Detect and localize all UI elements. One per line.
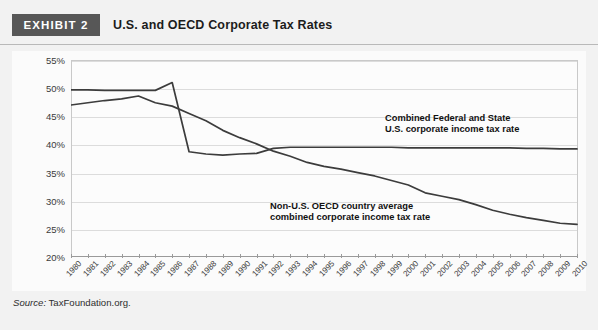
x-axis-tick-mark bbox=[459, 254, 460, 258]
header-divider bbox=[0, 44, 598, 45]
y-axis-tick-label: 30% bbox=[19, 195, 65, 206]
x-axis-tick-mark bbox=[206, 254, 207, 258]
x-axis-tick-label: 2005 bbox=[486, 259, 505, 278]
x-axis-tick-mark bbox=[105, 254, 106, 258]
x-axis-tick-label: 1995 bbox=[317, 259, 336, 278]
x-axis-tick-label: 2008 bbox=[537, 259, 556, 278]
x-axis-tick-label: 1989 bbox=[216, 259, 235, 278]
source-text: TaxFoundation.org. bbox=[46, 297, 131, 308]
source-keyword: Source: bbox=[13, 297, 46, 308]
y-axis-tick-label: 25% bbox=[19, 223, 65, 234]
annotation-oecd-line2: combined corporate income tax rate bbox=[270, 212, 430, 223]
exhibit-figure: EXHIBIT 2 U.S. and OECD Corporate Tax Ra… bbox=[0, 0, 598, 330]
annotation-us-line2: U.S. corporate income tax rate bbox=[385, 124, 519, 135]
y-axis-tick-label: 20% bbox=[19, 252, 65, 263]
x-axis-tick-label: 2010 bbox=[570, 259, 589, 278]
x-axis-tick-label: 1999 bbox=[385, 259, 404, 278]
x-axis-tick-label: 2001 bbox=[419, 259, 438, 278]
exhibit-title: U.S. and OECD Corporate Tax Rates bbox=[113, 14, 332, 36]
x-axis-tick-label: 1981 bbox=[81, 259, 100, 278]
x-axis-tick-mark bbox=[172, 254, 173, 258]
x-axis-tick-mark bbox=[88, 254, 89, 258]
x-axis-tick-mark bbox=[577, 254, 578, 258]
x-axis-tick-mark bbox=[358, 254, 359, 258]
x-axis-tick-label: 1986 bbox=[166, 259, 185, 278]
x-axis-tick-mark bbox=[307, 254, 308, 258]
x-axis-tick-label: 2004 bbox=[469, 259, 488, 278]
x-axis-tick-mark bbox=[560, 254, 561, 258]
annotation-us-line1: Combined Federal and State bbox=[385, 113, 519, 124]
x-axis-tick-label: 1982 bbox=[98, 259, 117, 278]
x-axis-tick-mark bbox=[510, 254, 511, 258]
x-axis-tick-mark bbox=[139, 254, 140, 258]
x-axis-tick-label: 1997 bbox=[351, 259, 370, 278]
x-axis-tick-label: 2007 bbox=[520, 259, 539, 278]
x-axis-tick-label: 1984 bbox=[132, 259, 151, 278]
x-axis-tick-mark bbox=[476, 254, 477, 258]
annotation-oecd-series: Non-U.S. OECD country average combined c… bbox=[270, 201, 430, 224]
y-axis-tick-label: 35% bbox=[19, 167, 65, 178]
series-lines bbox=[71, 60, 578, 257]
x-axis-tick-label: 1993 bbox=[284, 259, 303, 278]
x-axis-tick-label: 1990 bbox=[233, 259, 252, 278]
x-axis-tick-mark bbox=[257, 254, 258, 258]
x-axis-tick-mark bbox=[122, 254, 123, 258]
source-note: Source: TaxFoundation.org. bbox=[13, 297, 131, 308]
x-axis-tick-mark bbox=[543, 254, 544, 258]
x-axis-tick-mark bbox=[189, 254, 190, 258]
x-axis-tick-label: 1996 bbox=[334, 259, 353, 278]
chart-area: 20%25%30%35%40%45%50%55% 198019811982198… bbox=[12, 51, 586, 291]
x-axis-tick-mark bbox=[223, 254, 224, 258]
x-axis-tick-label: 1980 bbox=[64, 259, 83, 278]
x-axis-tick-label: 2009 bbox=[553, 259, 572, 278]
y-axis-tick-label: 40% bbox=[19, 139, 65, 150]
x-axis-tick-label: 2006 bbox=[503, 259, 522, 278]
x-axis-tick-label: 1988 bbox=[199, 259, 218, 278]
x-axis-tick-mark bbox=[71, 254, 72, 258]
x-axis-tick-mark bbox=[425, 254, 426, 258]
x-axis-tick-mark bbox=[375, 254, 376, 258]
x-axis-labels: 1980198119821983198419851986198719881989… bbox=[71, 259, 578, 311]
exhibit-badge: EXHIBIT 2 bbox=[12, 14, 100, 36]
x-axis-tick-mark bbox=[273, 254, 274, 258]
x-axis-tick-label: 2000 bbox=[402, 259, 421, 278]
x-axis-tick-label: 2003 bbox=[452, 259, 471, 278]
annotation-oecd-line1: Non-U.S. OECD country average bbox=[270, 201, 430, 212]
y-axis-tick-label: 50% bbox=[19, 83, 65, 94]
x-axis-tick-label: 1991 bbox=[250, 259, 269, 278]
x-axis-tick-mark bbox=[493, 254, 494, 258]
x-axis-tick-mark bbox=[408, 254, 409, 258]
x-axis-tick-label: 1985 bbox=[149, 259, 168, 278]
x-axis-tick-mark bbox=[324, 254, 325, 258]
x-axis-tick-mark bbox=[240, 254, 241, 258]
x-axis-tick-label: 1998 bbox=[368, 259, 387, 278]
x-axis-tick-mark bbox=[526, 254, 527, 258]
x-axis-tick-label: 1987 bbox=[182, 259, 201, 278]
x-axis-tick-label: 1994 bbox=[300, 259, 319, 278]
y-axis-labels: 20%25%30%35%40%45%50%55% bbox=[12, 60, 65, 257]
y-axis-tick-label: 55% bbox=[19, 55, 65, 66]
x-axis-tick-mark bbox=[290, 254, 291, 258]
y-axis-tick-label: 45% bbox=[19, 111, 65, 122]
x-axis-tick-label: 1992 bbox=[267, 259, 286, 278]
exhibit-header: EXHIBIT 2 U.S. and OECD Corporate Tax Ra… bbox=[0, 14, 598, 38]
x-axis-tick-mark bbox=[442, 254, 443, 258]
x-axis-tick-mark bbox=[341, 254, 342, 258]
x-axis-tick-mark bbox=[392, 254, 393, 258]
annotation-us-series: Combined Federal and State U.S. corporat… bbox=[385, 113, 519, 136]
x-axis-tick-label: 1983 bbox=[115, 259, 134, 278]
x-axis-tick-label: 2002 bbox=[435, 259, 454, 278]
x-axis-tick-mark bbox=[155, 254, 156, 258]
